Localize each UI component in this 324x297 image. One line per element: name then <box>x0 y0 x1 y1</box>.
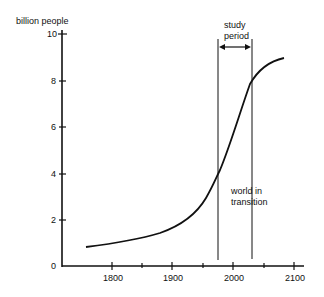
y-tick-8: 8 <box>51 76 56 86</box>
y-axis-title: billion people <box>16 16 69 26</box>
study-period-arrow <box>219 44 251 50</box>
x-tick-2000: 2000 <box>224 273 244 283</box>
study-label-line1: study <box>224 20 246 30</box>
y-tick-10: 10 <box>47 29 57 39</box>
x-tick-1900: 1900 <box>163 273 183 283</box>
y-tick-2: 2 <box>51 215 56 225</box>
population-curve <box>86 58 284 247</box>
study-label-line2: period <box>224 31 249 41</box>
y-tick-6: 6 <box>51 122 56 132</box>
x-tick-1800: 1800 <box>103 273 123 283</box>
population-chart: billion people 10 8 6 4 2 0 1800 1900 20… <box>0 0 324 297</box>
transition-label-line2: transition <box>231 197 268 207</box>
transition-label-line1: world in <box>230 186 262 196</box>
x-tick-2100: 2100 <box>285 273 305 283</box>
y-tick-4: 4 <box>51 169 56 179</box>
y-tick-0: 0 <box>51 261 56 271</box>
